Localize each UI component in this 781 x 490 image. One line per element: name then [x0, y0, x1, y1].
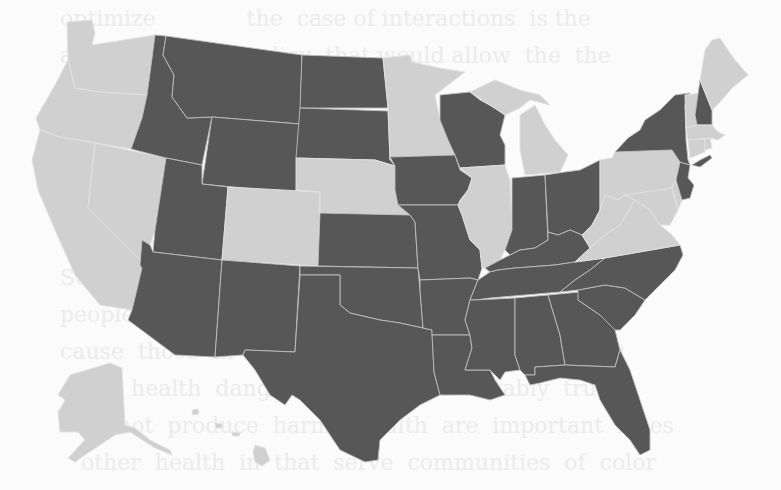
- state-kansas[interactable]: [318, 213, 418, 268]
- state-north-dakota[interactable]: [300, 55, 388, 108]
- us-choropleth-map: [0, 0, 781, 490]
- state-south-dakota[interactable]: [296, 108, 395, 166]
- state-mississippi[interactable]: [465, 298, 520, 380]
- state-maine[interactable]: [700, 38, 748, 110]
- state-alaska[interactable]: [58, 363, 172, 462]
- state-washington[interactable]: [67, 20, 155, 95]
- state-massachusetts[interactable]: [686, 125, 725, 140]
- state-hawaii[interactable]: [192, 409, 270, 466]
- state-rhode-island[interactable]: [705, 138, 712, 150]
- state-colorado[interactable]: [222, 187, 320, 266]
- state-montana[interactable]: [163, 36, 302, 124]
- state-wyoming[interactable]: [202, 117, 300, 193]
- state-connecticut[interactable]: [688, 139, 705, 158]
- state-new-mexico[interactable]: [215, 260, 300, 357]
